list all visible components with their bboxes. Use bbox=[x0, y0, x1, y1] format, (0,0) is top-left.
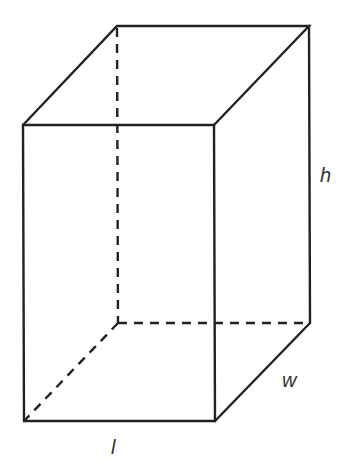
top-face bbox=[23, 26, 309, 125]
rectangular-prism-diagram: h w l bbox=[0, 0, 347, 471]
hidden-edge-back-left-vertical bbox=[117, 28, 118, 323]
edge-back-right-vertical bbox=[309, 26, 310, 323]
height-label: h bbox=[320, 164, 331, 186]
width-label: w bbox=[282, 369, 298, 391]
length-label: l bbox=[111, 436, 116, 458]
hidden-edge-bottom-left-depth bbox=[25, 323, 118, 420]
